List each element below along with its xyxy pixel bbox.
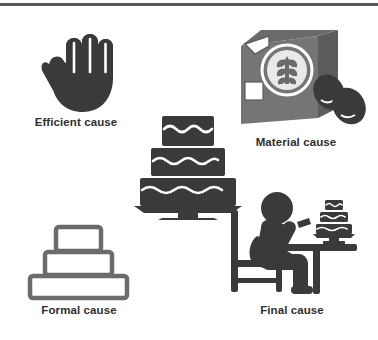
four-causes-figure: Efficient cause — [0, 0, 378, 340]
open-hand-icon — [33, 16, 119, 114]
top-divider-rule — [0, 3, 378, 6]
node-final-cause: Final cause — [222, 186, 362, 316]
node-efficient-cause-label: Efficient cause — [35, 116, 118, 128]
node-formal-cause-label: Formal cause — [41, 304, 116, 316]
node-formal-cause: Formal cause — [18, 222, 140, 316]
cake-outline-icon — [24, 222, 134, 302]
person-eating-cake-at-table-icon — [225, 186, 359, 302]
node-efficient-cause: Efficient cause — [18, 16, 134, 128]
node-final-cause-label: Final cause — [260, 304, 324, 316]
node-material-cause-label: Material cause — [256, 136, 337, 148]
